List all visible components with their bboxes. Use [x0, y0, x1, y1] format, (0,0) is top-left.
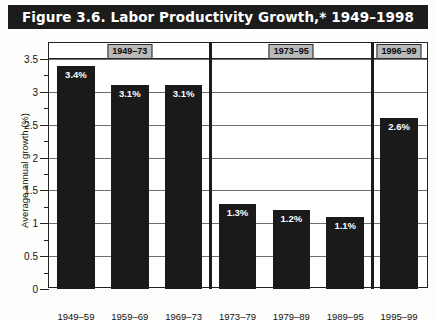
- group-label: 1973–95: [269, 44, 314, 59]
- y-axis-minor-tick: [44, 240, 49, 241]
- y-axis-tick-label: 0.5: [24, 251, 38, 262]
- y-axis-tick: [40, 289, 49, 290]
- group-label: 1949–73: [107, 44, 152, 59]
- figure-title-banner: Figure 3.6. Labor Productivity Growth,* …: [8, 5, 428, 29]
- y-axis-tick: [40, 256, 49, 257]
- y-axis-tick-label: 1.5: [24, 185, 38, 196]
- bar: 3.1%: [111, 85, 149, 289]
- y-axis-minor-tick: [44, 273, 49, 274]
- bar-value-label: 3.4%: [65, 69, 87, 80]
- y-axis-tick: [40, 59, 49, 60]
- y-axis-tick: [40, 158, 49, 159]
- y-axis-minor-tick: [44, 75, 49, 76]
- bar: 1.3%: [219, 204, 257, 289]
- group-divider: [371, 43, 374, 289]
- x-axis-tick-label: 1969–73: [165, 311, 202, 320]
- bar: 3.1%: [165, 85, 203, 289]
- plot-area: 00.511.522.533.5 3.4%3.1%3.1%1.3%1.2%1.1…: [49, 59, 427, 289]
- y-axis-tick-label: 3: [32, 86, 38, 97]
- y-axis-minor-tick: [44, 207, 49, 208]
- y-axis-tick-label: 2: [32, 152, 38, 163]
- group-label: 1996–99: [377, 44, 422, 59]
- y-axis-minor-tick: [44, 174, 49, 175]
- bar: 3.4%: [57, 66, 95, 289]
- x-axis-tick-label: 1949–59: [57, 311, 94, 320]
- y-axis-tick: [40, 125, 49, 126]
- bar-value-label: 3.1%: [173, 88, 195, 99]
- bar-value-label: 1.2%: [281, 213, 303, 224]
- x-axis-tick-label: 1973–79: [219, 311, 256, 320]
- bar-value-label: 3.1%: [119, 88, 141, 99]
- y-axis-minor-tick: [44, 108, 49, 109]
- plot-frame: 00.511.522.533.5 3.4%3.1%3.1%1.3%1.2%1.1…: [48, 42, 428, 288]
- y-axis-tick: [40, 92, 49, 93]
- x-axis-tick-label: 1995–99: [381, 311, 418, 320]
- y-axis-minor-tick: [44, 141, 49, 142]
- bar-value-label: 1.3%: [227, 207, 249, 218]
- bar-value-label: 1.1%: [334, 220, 356, 231]
- y-axis-tick: [40, 223, 49, 224]
- bar-value-label: 2.6%: [388, 121, 410, 132]
- y-axis-tick-label: 2.5: [24, 119, 38, 130]
- y-axis-tick-label: 1: [32, 218, 38, 229]
- y-axis-tick-label: 0: [32, 284, 38, 295]
- figure-container: Figure 3.6. Labor Productivity Growth,* …: [0, 0, 436, 320]
- x-axis-tick-label: 1979–89: [273, 311, 310, 320]
- figure-title: Figure 3.6. Labor Productivity Growth,* …: [22, 9, 414, 25]
- bar: 1.2%: [273, 210, 311, 289]
- x-axis-tick-label: 1989–95: [327, 311, 364, 320]
- x-axis-tick-label: 1959–69: [111, 311, 148, 320]
- group-divider: [209, 43, 212, 289]
- y-axis-tick-label: 3.5: [24, 54, 38, 65]
- bar: 1.1%: [326, 217, 364, 289]
- y-axis-tick: [40, 190, 49, 191]
- bar: 2.6%: [380, 118, 418, 289]
- y-axis-title: Average annual growth (%): [19, 71, 30, 271]
